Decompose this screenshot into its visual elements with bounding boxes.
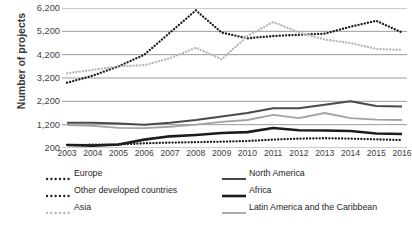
- x-axis-tick: 2008: [186, 148, 205, 158]
- y-axis-tick: 4,200: [26, 50, 60, 60]
- y-axis-tick: 6,200: [26, 3, 60, 13]
- x-axis-tick: 2011: [264, 148, 282, 158]
- chart-svg: [62, 8, 407, 148]
- series-line: [67, 22, 402, 73]
- legend-label: Latin America and the Caribbean: [249, 202, 377, 212]
- x-axis-tick: 2013: [315, 148, 334, 158]
- series-line: [67, 128, 402, 146]
- legend-item[interactable]: Africa: [221, 185, 272, 195]
- y-axis-tick: 5,200: [26, 26, 60, 36]
- legend-swatch: [221, 169, 247, 178]
- legend-label: Other developed countries: [74, 185, 177, 195]
- x-axis-tick: 2009: [212, 148, 231, 158]
- x-axis-tick: 2003: [57, 148, 76, 158]
- x-axis-tick: 2012: [289, 148, 308, 158]
- legend-swatch: [46, 186, 72, 195]
- legend-swatch: [221, 186, 247, 195]
- legend-item[interactable]: Asia: [46, 202, 91, 212]
- legend-label: Africa: [249, 185, 272, 195]
- y-axis-tick-labels: 2001,2002,2003,2004,2005,2006,200: [24, 0, 60, 160]
- legend-item[interactable]: Latin America and the Caribbean: [221, 202, 377, 212]
- legend-item[interactable]: Europe: [46, 168, 102, 178]
- legend-swatch: [46, 203, 72, 212]
- legend-label: Asia: [74, 202, 91, 212]
- x-axis-tick-labels: 2003200420052006200720082009201020112012…: [62, 148, 407, 162]
- y-axis-tick: 1,200: [26, 120, 60, 130]
- legend-label: North America: [249, 168, 305, 178]
- plot-area: [62, 8, 407, 148]
- x-axis-tick: 2015: [367, 148, 386, 158]
- legend-swatch: [46, 169, 72, 178]
- x-axis-tick: 2005: [109, 148, 128, 158]
- legend-label: Europe: [74, 168, 102, 178]
- x-axis-tick: 2016: [392, 148, 411, 158]
- legend-item[interactable]: North America: [221, 168, 305, 178]
- legend-swatch: [221, 203, 247, 212]
- legend-item[interactable]: Other developed countries: [46, 185, 177, 195]
- x-axis-tick: 2007: [161, 148, 180, 158]
- y-axis-tick: 200: [26, 143, 60, 153]
- chart-legend: EuropeOther developed countriesAsiaNorth…: [46, 168, 406, 220]
- y-axis-tick: 2,200: [26, 96, 60, 106]
- chart-container: Number of projects 2001,2002,2003,2004,2…: [0, 0, 412, 226]
- x-axis-tick: 2004: [83, 148, 102, 158]
- x-axis-tick: 2014: [341, 148, 360, 158]
- x-axis-tick: 2006: [135, 148, 154, 158]
- y-axis-tick: 3,200: [26, 73, 60, 83]
- x-axis-tick: 2010: [238, 148, 257, 158]
